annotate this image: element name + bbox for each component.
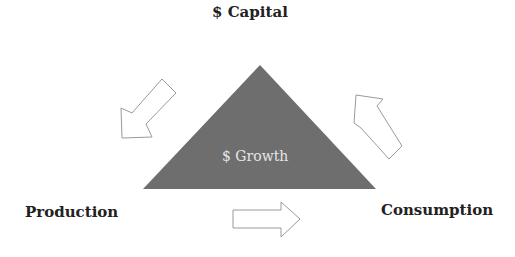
capital-label: $ Capital	[212, 3, 288, 21]
growth-label: $ Growth	[222, 148, 288, 164]
arrow-production-to-consumption	[233, 202, 300, 237]
consumption-label: Consumption	[381, 201, 493, 219]
growth-triangle	[143, 65, 376, 189]
production-label: Production	[25, 203, 118, 221]
arrow-capital-to-production	[121, 79, 176, 138]
arrow-consumption-to-capital	[354, 95, 402, 159]
